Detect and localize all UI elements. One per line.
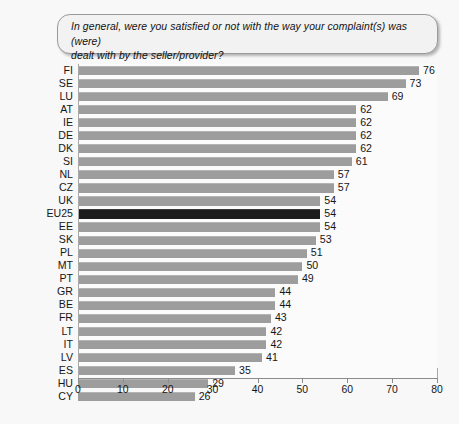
bar: [78, 92, 388, 101]
bar-row: FR43: [78, 312, 437, 325]
bar-row: SI61: [78, 155, 437, 168]
bar-value-label: 51: [307, 246, 323, 259]
axis-tick: [437, 378, 438, 383]
plot-area: FI76SE73LU69AT62IE62DE62DK62SI61NL57CZ57…: [78, 64, 437, 378]
bar-value-label: 54: [320, 220, 336, 233]
bar-row: UK54: [78, 195, 437, 208]
bar-value-label: 41: [262, 351, 278, 364]
bar-row: GR44: [78, 286, 437, 299]
axis-tick: [213, 378, 214, 383]
bar: [78, 262, 302, 271]
bar-row: IE62: [78, 116, 437, 129]
bar-category-label: FI: [64, 64, 73, 77]
bar-value-label: 62: [356, 103, 372, 116]
bar-row: DK62: [78, 142, 437, 155]
bar: [78, 118, 356, 127]
bar-category-label: PT: [59, 272, 73, 285]
axis-tick-label: 20: [162, 384, 174, 395]
bar-value-label: 62: [356, 129, 372, 142]
bar-row: SE73: [78, 77, 437, 90]
bar-value-label: 57: [334, 168, 350, 181]
bar-value-label: 53: [316, 233, 332, 246]
bar: [78, 353, 262, 362]
axis-tick-label: 80: [431, 384, 443, 395]
bar-value-label: 42: [266, 325, 282, 338]
bar: [78, 66, 419, 75]
bar-value-label: 43: [271, 311, 287, 324]
bar-row: SK53: [78, 234, 437, 247]
bar-category-label: LU: [59, 90, 73, 103]
axis-tick-label: 40: [252, 384, 264, 395]
bar-category-label: SE: [59, 77, 73, 90]
bar-row: AT62: [78, 103, 437, 116]
bar: [78, 340, 266, 349]
bar: [78, 170, 334, 179]
bar: [78, 327, 266, 336]
bar-value-label: 50: [302, 259, 318, 272]
axis-tick-label: 60: [341, 384, 353, 395]
bar-category-label: SI: [63, 155, 73, 168]
bar-value-label: 54: [320, 207, 336, 220]
bar-row: EE54: [78, 221, 437, 234]
bar: [78, 222, 320, 231]
axis-tick: [168, 378, 169, 383]
bar: [78, 392, 195, 401]
bar: [78, 288, 275, 297]
bar: [78, 196, 320, 205]
bar-row: CZ57: [78, 181, 437, 194]
bar-category-label: PL: [60, 246, 73, 259]
question-text: In general, were you satisfied or not wi…: [71, 20, 426, 64]
bar-row: PT49: [78, 273, 437, 286]
bar-value-label: 42: [266, 338, 282, 351]
bar: [78, 131, 356, 140]
bar-category-label: DE: [58, 129, 73, 142]
bar-category-label: IT: [64, 338, 73, 351]
bar-highlight: [78, 209, 320, 218]
bar-value-label: 73: [406, 77, 422, 90]
axis-tick: [347, 378, 348, 383]
bar-value-label: 57: [334, 181, 350, 194]
bar-category-label: EE: [59, 220, 73, 233]
bar-category-label: SK: [59, 233, 73, 246]
bar-category-label: DK: [58, 142, 73, 155]
bar-row: LT42: [78, 325, 437, 338]
bar-value-label: 54: [320, 194, 336, 207]
bar-category-label: ES: [59, 364, 73, 377]
bar: [78, 249, 307, 258]
bar-category-label: LT: [61, 325, 73, 338]
bar-row: BE44: [78, 299, 437, 312]
bar: [78, 79, 406, 88]
bar-row: MT50: [78, 260, 437, 273]
bar: [78, 301, 275, 310]
bar-category-label: HU: [58, 377, 73, 390]
value-axis-line: [78, 64, 79, 378]
bar-row: DE62: [78, 129, 437, 142]
bar: [78, 183, 334, 192]
bar-category-label: CZ: [59, 181, 73, 194]
axis-tick: [302, 378, 303, 383]
bar-value-label: 69: [388, 90, 404, 103]
bar-value-label: 62: [356, 116, 372, 129]
bar-row: EU2554: [78, 208, 437, 221]
axis-tick-label: 10: [117, 384, 129, 395]
axis-tick: [392, 378, 393, 383]
question-callout-box: In general, were you satisfied or not wi…: [57, 14, 438, 54]
bar-category-label: GR: [57, 285, 73, 298]
axis-tick: [78, 378, 79, 383]
axis-tick-label: 50: [297, 384, 309, 395]
bar-value-label: 35: [235, 364, 251, 377]
bar-category-label: IE: [63, 116, 73, 129]
bar-category-label: MT: [58, 259, 73, 272]
bar-category-label: EU25: [47, 207, 74, 220]
bar-value-label: 76: [419, 64, 435, 77]
bar-category-label: UK: [58, 194, 73, 207]
bar-category-label: CY: [58, 390, 73, 403]
axis-tick: [123, 378, 124, 383]
bar-value-label: 61: [352, 155, 368, 168]
bar-row: FI76: [78, 64, 437, 77]
bar-row: IT42: [78, 338, 437, 351]
bar: [78, 314, 271, 323]
bar-row: PL51: [78, 247, 437, 260]
bar-value-label: 44: [275, 298, 291, 311]
axis-tick-label: 0: [75, 384, 81, 395]
